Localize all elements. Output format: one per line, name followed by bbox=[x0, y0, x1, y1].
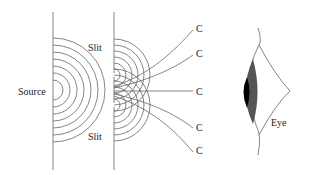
slit-top-label: Slit bbox=[88, 43, 102, 53]
eye-label: Eye bbox=[271, 118, 287, 128]
c-label: C bbox=[196, 146, 203, 156]
c-label: C bbox=[196, 87, 203, 97]
source-label: Source bbox=[18, 87, 46, 97]
c-label: C bbox=[196, 24, 203, 34]
diagram-canvas: Source Slit Slit C C C C C Eye bbox=[0, 0, 312, 175]
c-label: C bbox=[196, 123, 203, 133]
top-slit-wavefronts bbox=[114, 39, 150, 111]
c-label: C bbox=[196, 49, 203, 59]
source-wavefronts bbox=[53, 38, 105, 142]
interference-rays bbox=[114, 30, 193, 152]
diagram-svg bbox=[0, 0, 312, 175]
slit-bottom-label: Slit bbox=[88, 132, 102, 142]
